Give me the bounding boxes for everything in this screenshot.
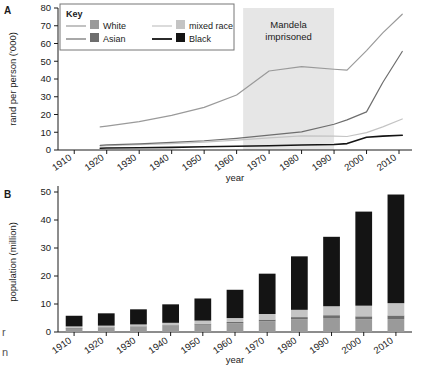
- bar-segment-asian: [162, 325, 179, 326]
- two-panel-figure: AMandelaimprisoned0102030405060708019101…: [0, 0, 424, 367]
- panel-b-bar-1980: [291, 256, 308, 332]
- bar-segment-mixed-race: [162, 323, 179, 325]
- bar-segment-white: [355, 319, 372, 332]
- panel-a: AMandelaimprisoned0102030405060708019101…: [4, 2, 412, 183]
- panel-b-x-tick-label: 2010: [371, 335, 395, 356]
- key-swatch-3: [176, 33, 185, 42]
- bar-segment-mixed-race: [66, 326, 83, 328]
- key-title: Key: [66, 9, 83, 19]
- bar-segment-asian: [291, 317, 308, 319]
- bar-segment-black: [194, 298, 211, 320]
- mandela-label-line2: imprisoned: [265, 31, 311, 42]
- panel-b-bar-1940: [162, 304, 179, 332]
- panel-b-x-tick-label: 1950: [178, 335, 202, 356]
- bar-segment-asian: [130, 326, 147, 327]
- bar-segment-asian: [355, 316, 372, 319]
- bar-segment-asian: [194, 324, 211, 325]
- bar-segment-black: [227, 290, 244, 318]
- panel-b-bar-2010: [388, 195, 405, 332]
- panel-a-letter: A: [4, 5, 11, 16]
- panel-a-x-tick-label: 1970: [245, 152, 269, 173]
- panel-a-y-tick-label: 80: [40, 2, 51, 13]
- bar-segment-black: [66, 316, 83, 327]
- panel-b-x-tick-label: 1930: [114, 335, 138, 356]
- panel-b-x-tick-label: 1990: [307, 335, 331, 356]
- bar-segment-mixed-race: [194, 321, 211, 324]
- bar-segment-black: [291, 256, 308, 309]
- panel-b-bar-1920: [98, 313, 115, 332]
- panel-a-x-tick-label: 1980: [277, 152, 301, 173]
- panel-a-y-tick-label: 60: [40, 38, 51, 49]
- panel-b-x-tick-label: 1920: [82, 335, 106, 356]
- panel-a-x-tick-label: 1930: [115, 152, 139, 173]
- panel-b-x-tick-label: 1910: [50, 335, 74, 356]
- panel-a-y-tick-label: 20: [40, 109, 51, 120]
- bar-segment-black: [388, 195, 405, 304]
- key-entry-label-1: mixed race: [189, 21, 233, 31]
- mandela-label-line1: Mandela: [270, 19, 307, 30]
- page-edge-fragment-2: n: [2, 346, 8, 358]
- bar-segment-mixed-race: [130, 324, 147, 326]
- panel-a-y-tick-label: 40: [40, 73, 51, 84]
- bar-segment-mixed-race: [355, 306, 372, 317]
- bar-segment-mixed-race: [323, 306, 340, 315]
- bar-segment-black: [162, 304, 179, 322]
- page-edge-fragment-1: r: [2, 326, 6, 338]
- bar-segment-asian: [66, 328, 83, 329]
- key-legend: KeyWhitemixed raceAsianBlack: [60, 4, 234, 50]
- panel-b-x-tick-label: 1970: [243, 335, 267, 356]
- panel-b-x-tick-label: 1980: [275, 335, 299, 356]
- panel-a-x-tick-label: 1990: [310, 152, 334, 173]
- panel-a-x-tick-label: 1950: [180, 152, 204, 173]
- bar-segment-white: [323, 318, 340, 332]
- key-swatch-0: [90, 20, 99, 29]
- panel-a-y-tick-label: 0: [46, 144, 51, 155]
- panel-b-y-tick-label: 20: [40, 270, 51, 281]
- panel-a-x-tick-label: 2000: [342, 152, 366, 173]
- bar-segment-asian: [388, 315, 405, 319]
- bar-segment-white: [130, 327, 147, 332]
- panel-a-y-tick-label: 10: [40, 127, 51, 138]
- panel-a-x-axis-title: year: [226, 172, 244, 183]
- bar-segment-white: [259, 321, 276, 332]
- panel-b-bar-1930: [130, 309, 147, 332]
- bar-segment-black: [98, 313, 115, 325]
- bar-segment-asian: [259, 320, 276, 322]
- panel-b-x-axis-title: year: [226, 354, 244, 365]
- bar-segment-white: [98, 328, 115, 332]
- key-swatch-2: [90, 33, 99, 42]
- bar-segment-white: [66, 328, 83, 332]
- panel-b-letter: B: [4, 189, 11, 200]
- panel-a-x-tick-label: 1920: [82, 152, 106, 173]
- panel-b: B01020304050population (million)year1910…: [4, 186, 412, 365]
- bar-segment-white: [388, 319, 405, 332]
- panel-b-y-axis-title: population (million): [7, 222, 18, 302]
- panel-a-y-axis-title: rand per person ('000): [7, 32, 18, 126]
- bar-segment-white: [291, 319, 308, 332]
- bar-segment-mixed-race: [291, 310, 308, 317]
- panel-b-bar-1960: [227, 290, 244, 332]
- bar-segment-mixed-race: [259, 314, 276, 320]
- panel-a-y-tick-label: 50: [40, 56, 51, 67]
- panel-b-bar-2000: [355, 212, 372, 332]
- key-entry-label-3: Black: [189, 34, 212, 44]
- panel-b-bar-1910: [66, 316, 83, 332]
- key-swatch-1: [176, 20, 185, 29]
- panel-b-bar-1990: [323, 237, 340, 332]
- panel-b-x-tick-label: 2000: [339, 335, 363, 356]
- bar-segment-white: [194, 325, 211, 332]
- panel-a-x-tick-label: 1910: [50, 152, 74, 173]
- bar-segment-mixed-race: [98, 326, 115, 328]
- bar-segment-asian: [227, 322, 244, 323]
- bar-segment-asian: [323, 315, 340, 318]
- panel-b-x-tick-label: 1960: [211, 335, 235, 356]
- panel-b-y-tick-label: 30: [40, 242, 51, 253]
- bar-segment-black: [130, 309, 147, 324]
- key-entry-label-0: White: [103, 21, 126, 31]
- bar-segment-white: [162, 326, 179, 332]
- panel-b-y-tick-label: 40: [40, 214, 51, 225]
- panel-b-y-tick-label: 10: [40, 298, 51, 309]
- panel-a-x-tick-label: 1940: [147, 152, 171, 173]
- key-entry-label-2: Asian: [103, 34, 126, 44]
- bar-segment-asian: [98, 327, 115, 328]
